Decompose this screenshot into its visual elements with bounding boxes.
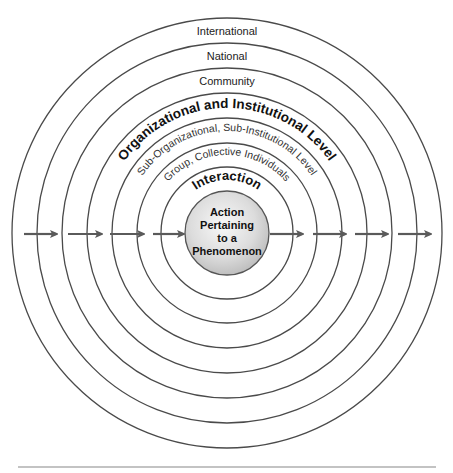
label-national: National	[207, 50, 247, 62]
core-line-1: Action	[210, 206, 245, 218]
label-international: International	[197, 25, 258, 37]
core-line-4: Phenomenon	[192, 245, 262, 257]
concentric-levels-diagram: International National Community Organiz…	[0, 0, 453, 473]
label-interaction: Interaction	[189, 168, 265, 193]
core-line-3: to a	[217, 232, 237, 244]
label-community: Community	[199, 75, 255, 87]
core-line-2: Pertaining	[200, 219, 254, 231]
